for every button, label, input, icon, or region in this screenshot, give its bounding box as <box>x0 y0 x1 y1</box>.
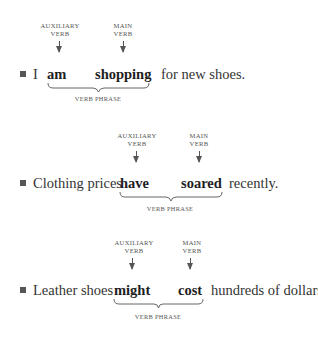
label-line: VERB <box>115 247 154 255</box>
bullet-icon <box>20 71 26 77</box>
brace-icon <box>47 83 150 93</box>
label-line: MAIN <box>114 22 133 30</box>
bullet-icon <box>20 287 26 293</box>
example-1: AUXILIARY VERB MAIN VERB I am shopping f… <box>0 0 318 110</box>
label-line: VERB <box>190 140 209 148</box>
main-verb: cost <box>178 282 202 298</box>
sentence-rest: hundreds of dollars. <box>211 282 318 298</box>
example-3: AUXILIARY VERB MAIN VERB Leather shoes m… <box>0 220 318 337</box>
down-arrow-icon <box>59 41 60 52</box>
down-arrow-icon <box>136 151 137 162</box>
verb-phrase-label: VERB PHRASE <box>147 205 193 212</box>
label-line: MAIN <box>183 239 202 247</box>
label-line: VERB <box>118 140 157 148</box>
down-arrow-icon <box>190 258 191 269</box>
label-line: AUXILIARY <box>115 239 154 247</box>
label-line: AUXILIARY <box>118 132 157 140</box>
label-line: AUXILIARY <box>41 22 80 30</box>
label-line: VERB <box>41 30 80 38</box>
main-verb: shopping <box>95 66 151 82</box>
auxiliary-verb: might <box>114 282 150 298</box>
main-verb-label: MAIN VERB <box>114 22 133 38</box>
label-line: VERB <box>183 247 202 255</box>
label-line: MAIN <box>190 132 209 140</box>
auxiliary-verb-label: AUXILIARY VERB <box>115 239 154 255</box>
down-arrow-icon <box>123 41 124 52</box>
main-verb-label: MAIN VERB <box>183 239 202 255</box>
subject: Leather shoes <box>33 282 113 298</box>
subject: Clothing prices <box>33 175 122 191</box>
auxiliary-verb-label: AUXILIARY VERB <box>118 132 157 148</box>
brace-icon <box>113 299 204 309</box>
down-arrow-icon <box>199 151 200 162</box>
verb-phrase-label: VERB PHRASE <box>135 313 181 320</box>
bullet-icon <box>20 180 26 186</box>
main-verb-label: MAIN VERB <box>190 132 209 148</box>
example-2: AUXILIARY VERB MAIN VERB Clothing prices… <box>0 110 318 220</box>
sentence-rest: for new shoes. <box>161 66 245 82</box>
sentence-rest: recently. <box>229 175 278 191</box>
brace-icon <box>119 192 223 202</box>
verb-phrase-label: VERB PHRASE <box>75 95 121 102</box>
auxiliary-verb-label: AUXILIARY VERB <box>41 22 80 38</box>
auxiliary-verb: am <box>47 66 66 82</box>
main-verb: soared <box>181 175 222 191</box>
down-arrow-icon <box>132 258 133 269</box>
sentence: I <box>33 66 38 82</box>
subject: I <box>33 66 38 82</box>
label-line: VERB <box>114 30 133 38</box>
auxiliary-verb: have <box>120 175 149 191</box>
